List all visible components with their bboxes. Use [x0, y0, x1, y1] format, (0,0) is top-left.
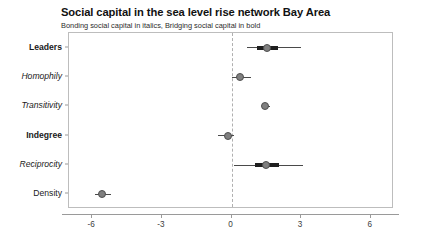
x-axis-tick-label: 3	[298, 220, 303, 229]
x-axis-tick	[91, 215, 92, 218]
y-axis-tick	[65, 76, 68, 77]
y-axis-label: Transitivity	[22, 100, 62, 110]
estimate-point	[261, 102, 269, 110]
y-axis-label: Indegree	[26, 130, 62, 140]
y-axis-label: Reciprocity	[19, 159, 62, 169]
x-axis-tick-label: -3	[157, 220, 164, 229]
chart-title: Social capital in the sea level rise net…	[61, 6, 330, 18]
y-axis-label: Density	[33, 188, 62, 198]
x-axis-tick-label: 0	[228, 220, 233, 229]
y-axis-tick	[65, 134, 68, 135]
estimate-point	[236, 73, 244, 81]
estimate-point	[262, 161, 270, 169]
zero-reference-line	[232, 33, 233, 207]
y-axis-labels: LeadersHomophilyTransitivityIndegreeReci…	[0, 32, 62, 208]
y-axis-tick	[65, 105, 68, 106]
chart-subtitle: Bonding social capital in italics, Bridg…	[61, 21, 260, 30]
estimate-point	[98, 190, 106, 198]
estimate-point	[263, 44, 271, 52]
y-axis-tick	[65, 193, 68, 194]
x-axis-tick	[161, 215, 162, 218]
y-axis-tick	[65, 164, 68, 165]
y-axis-tick	[65, 46, 68, 47]
x-axis-tick	[370, 215, 371, 218]
x-axis-tick	[300, 215, 301, 218]
x-axis-tick	[231, 215, 232, 218]
estimate-point	[224, 132, 232, 140]
plot-panel	[68, 32, 393, 208]
x-axis-tick-label: -6	[88, 220, 95, 229]
x-axis-tick-label: 6	[368, 220, 373, 229]
coefficient-plot-figure: Social capital in the sea level rise net…	[0, 0, 423, 245]
y-axis-label: Leaders	[29, 42, 62, 52]
y-axis-label: Homophily	[21, 71, 62, 81]
